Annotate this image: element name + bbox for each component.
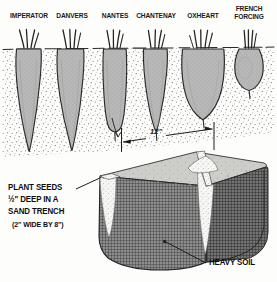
variety-label-french-forcing: FORCING xyxy=(234,13,264,21)
soil-stipple-fill xyxy=(2,47,274,157)
variety-label-chantenay: CHANTENAY xyxy=(136,12,176,20)
upper-soil-bed xyxy=(2,47,274,157)
tops-chantenay xyxy=(148,30,164,48)
illustration-canvas xyxy=(0,0,277,282)
callout-depth-value: ½" xyxy=(8,194,18,204)
callout-plant-seeds-line1: PLANT SEEDS xyxy=(8,182,62,194)
tops-french-forcing xyxy=(244,30,256,48)
tops-danvers xyxy=(63,30,81,49)
callout-depth-rest: DEEP IN A xyxy=(18,194,58,204)
callout-plant-seeds-line3: SAND TRENCH xyxy=(8,206,64,218)
callout-plant-seeds-line2: ½" DEEP IN A xyxy=(8,194,58,206)
leader-plant-seeds xyxy=(76,178,101,190)
tops-imperator xyxy=(20,30,39,49)
tops-oxheart xyxy=(190,30,213,48)
callout-plant-seeds-line4: (2" WIDE BY 8") xyxy=(12,219,64,231)
variety-label-oxheart: OXHEART xyxy=(187,12,218,20)
dimension-label-12in: 12" xyxy=(150,127,162,136)
variety-label-nantes: NANTES xyxy=(102,12,128,20)
variety-label-danvers: DANVERS xyxy=(56,12,87,20)
variety-label-imperator: IMPERATOR xyxy=(10,12,48,20)
tops-nantes xyxy=(107,30,123,48)
callout-heavy-soil: HEAVY SOIL xyxy=(209,257,255,269)
carrot-tops-group xyxy=(20,30,257,49)
carrot-planting-diagram: IMPERATOR DANVERS NANTES CHANTENAY OXHEA… xyxy=(0,0,277,282)
soil-block-3d xyxy=(99,151,268,270)
